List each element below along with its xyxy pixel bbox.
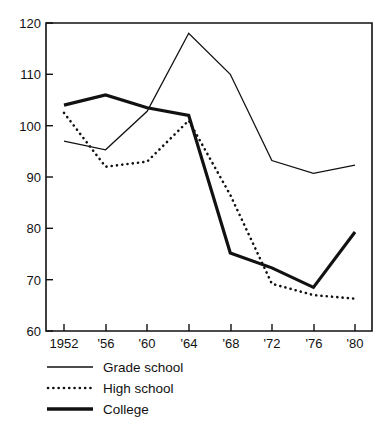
data-series-group xyxy=(64,33,355,298)
series-line-college xyxy=(64,95,355,288)
chart-svg: 120 110 100 90 80 70 60 1952 '56 '60 '64… xyxy=(0,0,392,429)
y-tick-label: 120 xyxy=(19,16,41,31)
x-tick-label: '76 xyxy=(306,336,323,351)
y-tick-label: 90 xyxy=(27,170,41,185)
legend-item-label-grade-school: Grade school xyxy=(103,360,183,375)
x-tick-label: 1952 xyxy=(50,336,79,351)
y-tick-label: 110 xyxy=(20,67,41,82)
legend: Grade school High school College xyxy=(47,360,183,417)
line-chart-figure: 120 110 100 90 80 70 60 1952 '56 '60 '64… xyxy=(0,0,392,429)
x-tick-label: '80 xyxy=(347,336,364,351)
series-line-grade-school xyxy=(64,33,355,173)
x-tick-label: '72 xyxy=(264,336,281,351)
series-line-high-school xyxy=(64,113,355,299)
x-tick-label: '64 xyxy=(181,336,198,351)
legend-item-label-high-school: High school xyxy=(103,381,174,396)
legend-item-label-college: College xyxy=(103,402,149,417)
x-tick-label: '68 xyxy=(223,336,240,351)
y-tick-label: 70 xyxy=(27,273,41,288)
y-axis-labels: 120 110 100 90 80 70 60 xyxy=(19,16,41,339)
y-axis-ticks xyxy=(46,23,53,331)
x-tick-label: '56 xyxy=(98,336,115,351)
plot-frame xyxy=(46,23,372,331)
y-tick-label: 80 xyxy=(27,221,41,236)
x-tick-label: '60 xyxy=(139,336,156,351)
y-tick-label: 60 xyxy=(27,324,41,339)
x-axis-labels: 1952 '56 '60 '64 '68 '72 '76 '80 xyxy=(50,336,364,351)
x-axis-ticks xyxy=(64,324,355,331)
y-tick-label: 100 xyxy=(19,119,41,134)
